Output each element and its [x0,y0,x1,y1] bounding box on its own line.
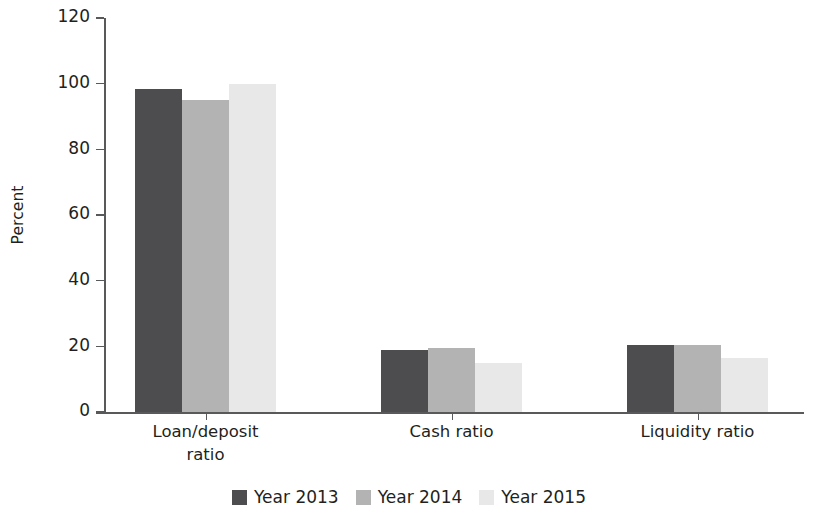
y-axis-tick-label: 0 [79,400,90,421]
y-axis-tick-label: 20 [68,335,90,356]
legend-item[interactable]: Year 2014 [356,487,463,507]
bar[interactable] [428,348,475,412]
x-axis-category-label: Cash ratio [342,420,562,443]
y-axis-title: Percent [0,0,36,430]
legend-label: Year 2014 [378,487,463,507]
y-axis-tick: 20 [96,346,104,348]
y-axis-tick-label: 80 [68,138,90,159]
y-axis-tick: 100 [96,83,104,85]
bar-group [381,18,522,412]
y-axis-tick: 80 [96,149,104,151]
legend-swatch-icon [479,490,494,505]
y-axis-tick-label: 60 [68,203,90,224]
bar[interactable] [674,345,721,412]
legend-swatch-icon [356,490,371,505]
bar[interactable] [627,345,674,412]
bar-group [135,18,276,412]
x-axis-tick [698,412,700,420]
x-axis-category-label: Liquidity ratio [588,420,808,443]
y-axis-tick: 0 [96,411,104,413]
y-axis-tick-label: 40 [68,269,90,290]
bar[interactable] [721,358,768,412]
y-axis-tick: 40 [96,280,104,282]
bar[interactable] [381,350,428,412]
bar[interactable] [475,363,522,412]
y-axis-title-text: Percent [9,185,27,244]
x-axis-tick [206,412,208,420]
legend-item[interactable]: Year 2013 [232,487,339,507]
bar-chart: Percent 020406080100120 Loan/deposit rat… [0,0,818,522]
y-axis-tick: 120 [96,17,104,19]
legend-label: Year 2015 [501,487,586,507]
x-axis-category-label: Loan/deposit ratio [96,420,316,466]
y-axis-tick-label: 100 [58,72,90,93]
y-axis-tick: 60 [96,214,104,216]
y-axis-tick-label: 120 [58,6,90,27]
legend-swatch-icon [232,490,247,505]
y-axis-line [104,18,106,412]
chart-legend: Year 2013Year 2014Year 2015 [0,487,818,507]
legend-item[interactable]: Year 2015 [479,487,586,507]
legend-label: Year 2013 [254,487,339,507]
x-axis-tick [452,412,454,420]
bar[interactable] [135,89,182,412]
bar[interactable] [182,100,229,412]
bar-group [627,18,768,412]
bar[interactable] [229,84,276,412]
plot-area: 020406080100120 [104,18,804,412]
